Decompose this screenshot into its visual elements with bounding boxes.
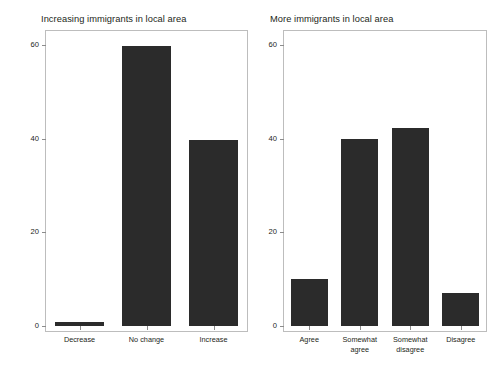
plot-frame: 0204060DecreaseNo changeIncrease [45,30,248,332]
x-axis-tick [461,326,462,330]
plot-frame: 0204060AgreeSomewhatagreeSomewhatdisagre… [283,30,487,332]
y-axis-tick [280,139,284,140]
plot-area: 0204060AgreeSomewhatagreeSomewhatdisagre… [284,31,486,331]
figure: Percentage of respondents Increasing imm… [0,0,498,379]
x-axis-tick-label: Disagree [427,335,496,345]
bar [189,140,239,326]
y-axis-tick [42,45,46,46]
panel-increasing-immigrants: Increasing immigrants in local area 0204… [0,0,250,379]
x-axis-tick [410,326,411,330]
y-axis-tick-label: 40 [257,134,277,143]
y-axis-tick [280,232,284,233]
y-axis-tick-label: 0 [257,321,277,330]
panel-title: Increasing immigrants in local area [41,14,186,24]
bar [392,128,429,326]
y-axis-tick-label: 60 [257,40,277,49]
y-axis-tick-label: 20 [19,227,39,236]
x-axis-tick-label: Increase [171,335,256,345]
bar [291,279,328,326]
panel-title: More immigrants in local area [270,14,393,24]
y-axis-tick [280,326,284,327]
x-axis-tick [360,326,361,330]
y-axis-tick [42,232,46,233]
x-axis-tick [214,326,215,330]
y-axis-tick [280,45,284,46]
bar [442,293,479,326]
y-axis-tick [42,326,46,327]
y-axis-tick-label: 0 [19,321,39,330]
y-axis-tick-label: 60 [19,40,39,49]
bar [122,46,172,326]
panel-more-immigrants: More immigrants in local area 0204060Agr… [248,0,498,379]
plot-area: 0204060DecreaseNo changeIncrease [46,31,247,331]
bar [341,139,378,326]
y-axis-tick [42,139,46,140]
x-axis-tick [309,326,310,330]
x-axis-tick [80,326,81,330]
x-axis-tick [147,326,148,330]
y-axis-tick-label: 40 [19,134,39,143]
y-axis-tick-label: 20 [257,227,277,236]
